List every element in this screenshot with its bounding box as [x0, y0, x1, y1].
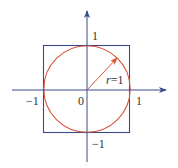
- radius-value: =1: [111, 73, 124, 87]
- diagram-graphics: [0, 0, 178, 168]
- x-axis-label-negative: −1: [26, 95, 39, 107]
- y-axis-label-positive: 1: [92, 30, 98, 42]
- y-axis-label-negative: −1: [92, 138, 105, 150]
- radius-label: r=1: [106, 74, 123, 86]
- x-axis-label-positive: 1: [136, 95, 142, 107]
- origin-label: 0: [78, 95, 84, 107]
- unit-circle-diagram: 1 −1 −1 1 0 r=1: [0, 0, 178, 168]
